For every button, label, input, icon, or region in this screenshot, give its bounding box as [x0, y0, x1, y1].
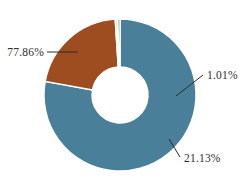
- donut-slices: [44, 19, 196, 171]
- slice-label-brown: 21.13%: [184, 152, 221, 164]
- donut-chart-svg: 77.86% 21.13% 1.01%: [0, 0, 250, 183]
- donut-chart: 77.86% 21.13% 1.01%: [0, 0, 250, 183]
- slice-label-blue: 77.86%: [7, 46, 44, 58]
- slice-label-small: 1.01%: [207, 69, 238, 81]
- pie-slice-brown[interactable]: [45, 19, 118, 90]
